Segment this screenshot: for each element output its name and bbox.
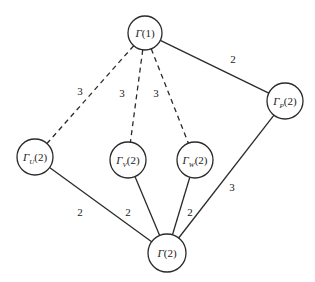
edge-g1-gv — [130, 50, 142, 142]
node-gu: ΓU(2) — [17, 139, 53, 175]
edge-weight-label: 3 — [119, 87, 125, 99]
edge-weight-label: 2 — [187, 206, 193, 218]
node-label: Γ(1) — [134, 27, 154, 40]
edge-labels-layer: 33322223 — [77, 53, 236, 218]
edge-weight-label: 3 — [229, 181, 235, 193]
edge-weight-label: 3 — [153, 87, 159, 99]
edge-weight-label: 2 — [77, 206, 83, 218]
node-argument: (2) — [284, 95, 297, 108]
node-label: Γ(2) — [156, 247, 176, 260]
node-g1: Γ(1) — [128, 16, 162, 50]
edge-weight-label: 2 — [125, 206, 131, 218]
node-gv: ΓV(2) — [110, 142, 146, 178]
edge-weight-label: 3 — [77, 85, 83, 97]
node-argument: (2) — [195, 154, 208, 167]
node-argument: (2) — [34, 151, 47, 164]
node-gp: ΓP(2) — [267, 83, 303, 119]
node-gw: ΓW(2) — [177, 142, 213, 178]
edge-gv-g2 — [135, 177, 160, 236]
nodes-layer: Γ(1)ΓU(2)ΓV(2)ΓW(2)ΓP(2)Γ(2) — [17, 16, 303, 272]
node-argument: (2) — [127, 154, 140, 167]
edge-weight-label: 2 — [230, 53, 236, 65]
node-argument: (2) — [164, 247, 177, 260]
edge-g1-gp — [160, 40, 269, 93]
node-g2: Γ(2) — [148, 234, 186, 272]
graph-diagram: 33322223 Γ(1)ΓU(2)ΓV(2)ΓW(2)ΓP(2)Γ(2) — [0, 0, 315, 282]
node-argument: (1) — [142, 27, 155, 40]
